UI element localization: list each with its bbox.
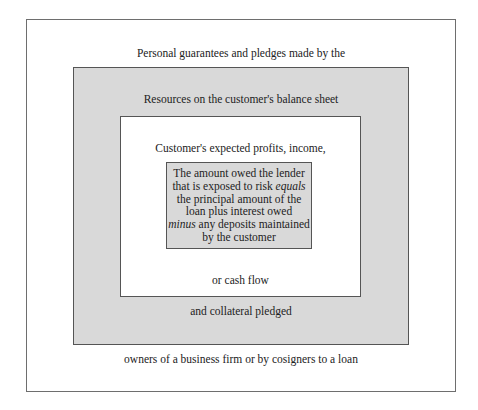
income-bottom-label: or cash flow [121, 273, 360, 287]
core-line-2: that is exposed to risk equals [167, 180, 311, 193]
outer-bottom-label: owners of a business firm or by cosigner… [27, 352, 455, 366]
core-line-6: by the customer [167, 231, 311, 244]
balance-sheet-top-label: Resources on the customer's balance shee… [74, 92, 408, 106]
core-line-1: The amount owed the lender [167, 167, 311, 180]
core-exposure-box: The amount owed the lender that is expos… [166, 162, 312, 249]
core-line-2-emphasis: equals [276, 180, 306, 192]
core-exposure-text: The amount owed the lender that is expos… [167, 167, 311, 244]
core-line-5-emphasis: minus [168, 218, 195, 230]
outer-top-label: Personal guarantees and pledges made by … [27, 46, 455, 60]
core-line-5: minus any deposits maintained [167, 218, 311, 231]
core-line-5-text: any deposits maintained [196, 218, 310, 230]
core-line-4: loan plus interest owed [167, 205, 311, 218]
core-line-2-text: that is exposed to risk [172, 180, 275, 192]
income-top-label: Customer's expected profits, income, [121, 141, 360, 155]
balance-sheet-bottom-label: and collateral pledged [74, 304, 408, 318]
core-line-3: the principal amount of the [167, 193, 311, 206]
